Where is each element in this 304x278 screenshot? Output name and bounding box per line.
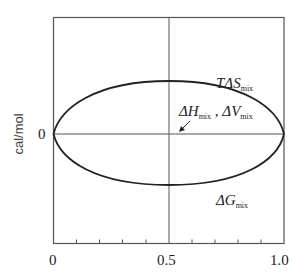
chart-canvas: [0, 0, 304, 278]
dh-main: ΔH: [179, 103, 199, 119]
x-tick-10: 1.0: [270, 253, 289, 268]
y-tick-zero: 0: [38, 127, 46, 142]
dv-main: ΔV: [222, 103, 240, 119]
x-tick-05: 0.5: [157, 253, 176, 268]
dh-sub: mix: [199, 112, 211, 121]
arrow-icon: [179, 121, 190, 132]
dg-main: ΔG: [216, 192, 236, 208]
dv-sub: mix: [240, 112, 252, 121]
dh-dv-mix-label: ΔHmix , ΔVmix: [179, 104, 253, 121]
tds-main: TΔS: [216, 75, 241, 91]
y-axis-label: cal/mol: [11, 113, 26, 154]
tds-mix-label: TΔSmix: [216, 76, 253, 93]
x-tick-0: 0: [49, 253, 57, 268]
tds-sub: mix: [241, 84, 253, 93]
separator: ,: [211, 103, 222, 119]
dg-sub: mix: [236, 201, 248, 210]
dg-mix-label: ΔGmix: [216, 193, 248, 210]
